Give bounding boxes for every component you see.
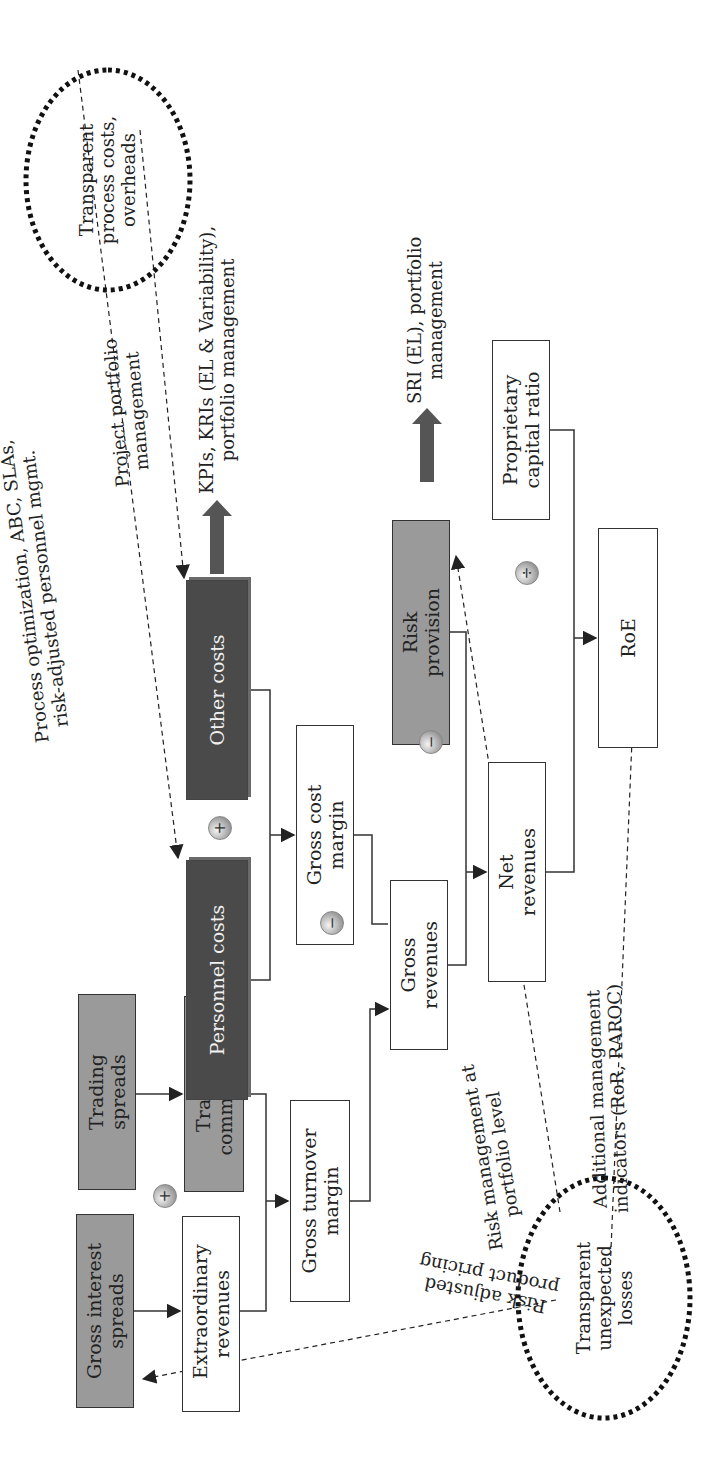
diagram-canvas: Gross interest spreads Trading spreads E… — [0, 0, 710, 1484]
minus-operator-icon: − — [419, 730, 443, 754]
node-label: Proprietary capital ratio — [499, 360, 543, 500]
plus-operator-icon: + — [153, 1184, 177, 1208]
node-proprietary-capital-ratio: Proprietary capital ratio — [492, 340, 550, 520]
node-trading-spreads: Trading spreads — [78, 994, 136, 1190]
node-other-costs: Other costs — [186, 580, 248, 800]
annotation-line: KPIs, KRIs (EL & Variability), — [196, 226, 217, 494]
annotation-sri: SRI (EL), portfolio management — [404, 237, 446, 404]
minus-operator-icon: − — [320, 911, 344, 935]
node-label: Trading spreads — [85, 1047, 129, 1137]
node-label: Other costs — [206, 634, 228, 745]
node-risk-provision: Risk provision — [392, 520, 450, 745]
annotation-additional-indicators: Additional management indicators (RoR, R… — [582, 984, 632, 1214]
node-gross-revenues: Gross revenues — [390, 880, 448, 1050]
node-net-revenues: Net revenues — [488, 762, 546, 982]
node-gross-turnover-margin: Gross turnover margin — [290, 1100, 350, 1302]
plus-operator-icon: + — [208, 816, 232, 840]
ellipse-transparent-process-costs: Transparent process costs, overheads — [76, 110, 139, 250]
ellipse-transparent-unexpected-losses: Transparent unexpected losses — [573, 1228, 636, 1368]
node-roe: RoE — [598, 528, 658, 748]
node-extraordinary-revenues: Extraordinary revenues — [182, 1216, 240, 1412]
node-label: Gross turnover margin — [298, 1116, 342, 1286]
node-personnel-costs: Personnel costs — [186, 860, 248, 1100]
annotation-line: portfolio management — [217, 226, 238, 494]
node-label: RoE — [617, 618, 639, 658]
annotation-kpis: KPIs, KRIs (EL & Variability), portfolio… — [196, 226, 238, 494]
node-label: Gross cost margin — [303, 775, 347, 895]
divide-operator-icon: ÷ — [515, 561, 539, 585]
node-label: Net revenues — [495, 822, 539, 922]
node-label: Gross interest spreads — [83, 1236, 127, 1386]
node-label: Risk provision — [399, 583, 443, 683]
annotation-line: management — [425, 237, 446, 404]
node-label: Extraordinary revenues — [189, 1249, 233, 1379]
node-gross-interest-spreads: Gross interest spreads — [76, 1214, 134, 1408]
node-label: Gross revenues — [397, 915, 441, 1015]
node-label: Personnel costs — [206, 905, 228, 1056]
annotation-line: SRI (EL), portfolio — [404, 237, 425, 404]
